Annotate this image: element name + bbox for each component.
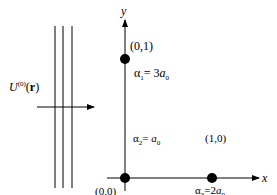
coord-label-0-0: (0,0)	[95, 186, 116, 195]
x-axis-label: x	[262, 172, 267, 184]
y-axis-label: y	[121, 5, 126, 17]
field-label: U(0)(r)	[9, 81, 39, 93]
alpha-label-2: α2= a0	[133, 133, 160, 147]
point-0-0	[120, 173, 130, 183]
point-1-0	[207, 173, 217, 183]
alpha-label-1: α1= 3a0	[134, 67, 169, 82]
point-0-1	[120, 54, 130, 64]
coord-label-0-1: (0,1)	[130, 40, 153, 52]
diagram-canvas	[0, 0, 277, 195]
alpha-label-3: α3=2a0	[195, 185, 225, 195]
coord-label-1-0: (1,0)	[205, 133, 226, 144]
